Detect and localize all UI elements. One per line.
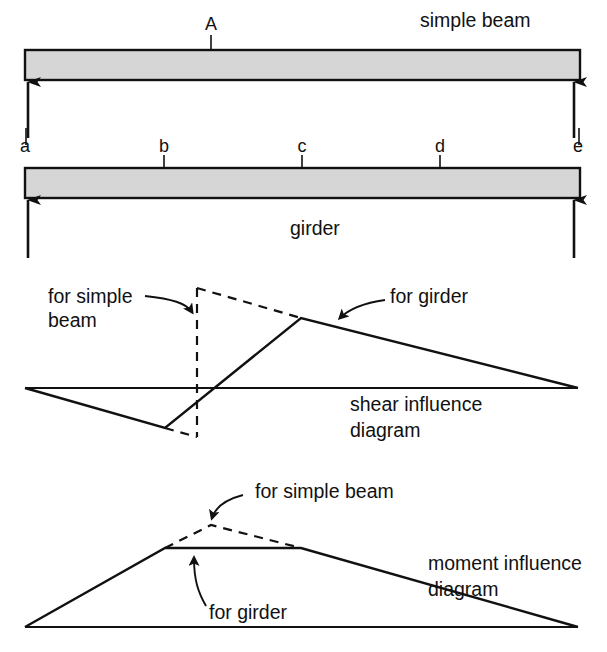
point-a-label: A (205, 14, 217, 34)
shear-for-simple-beam-label-line2: beam (48, 309, 97, 331)
moment-caption-line2: diagram (428, 578, 498, 600)
shear-caption-line2: diagram (350, 419, 420, 441)
simple-beam-caption: simple beam (420, 9, 531, 31)
point-e-label: e (573, 136, 583, 156)
moment-for-simple-beam-label: for simple beam (255, 480, 394, 502)
moment-simple-beam-dashed (165, 525, 301, 548)
point-b-label: b (159, 136, 169, 156)
moment-girder-leader-arrow (194, 558, 206, 606)
point-d-label: d (435, 136, 445, 156)
simple-beam-panel (25, 35, 580, 138)
point-a-label-girder: a (20, 136, 31, 156)
simple-beam-bar (25, 50, 580, 80)
moment-simple-beam-leader-arrow (212, 495, 243, 518)
girder-caption: girder (290, 217, 340, 239)
shear-girder-curve (25, 318, 578, 428)
shear-simple-beam-upper-dashed (197, 288, 301, 318)
girder-bar (25, 168, 580, 198)
diagram-canvas: A simple beam a b c d e girder for simpl… (0, 0, 607, 652)
point-c-label: c (298, 136, 307, 156)
shear-caption-line1: shear influence (350, 393, 482, 415)
shear-for-girder-label: for girder (390, 285, 469, 307)
shear-influence-diagram-panel (25, 288, 578, 437)
shear-girder-leader-arrow (340, 300, 385, 318)
moment-caption-line1: moment influence (428, 552, 582, 574)
shear-for-simple-beam-label-line1: for simple (48, 285, 133, 307)
shear-simple-beam-lower-dashed (165, 428, 197, 437)
influence-diagram-figure: A simple beam a b c d e girder for simpl… (0, 0, 607, 652)
shear-simple-beam-leader-arrow (145, 296, 192, 312)
moment-for-girder-label: for girder (209, 601, 288, 623)
